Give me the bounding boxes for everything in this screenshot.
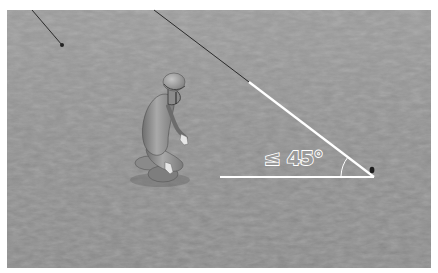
terrain [7,10,431,268]
scene-image: ≤ 45° [0,0,438,273]
angle-label: ≤ 45° [264,146,323,170]
vertex-marker-dot [370,167,375,173]
left-marker-dot [60,43,64,47]
